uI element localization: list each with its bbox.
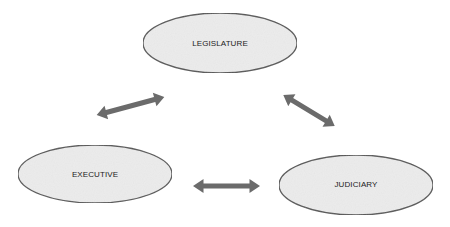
judiciary-label: JUDICIARY — [335, 180, 378, 189]
diagram-canvas — [0, 0, 450, 227]
double-arrow-executive-judiciary-icon — [193, 179, 260, 193]
executive-label: EXECUTIVE — [72, 170, 118, 179]
double-arrow-legislature-executive-icon — [95, 90, 166, 122]
legislature-label: LEGISLATURE — [192, 39, 248, 48]
double-arrow-legislature-judiciary-icon — [280, 89, 339, 132]
